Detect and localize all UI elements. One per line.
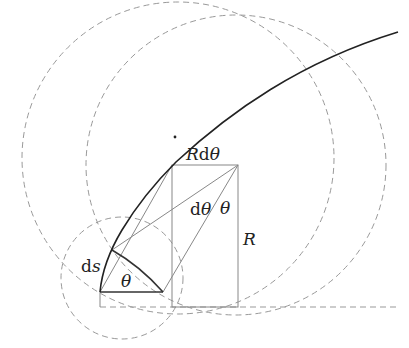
label-r-dtheta: Rdθ <box>185 144 220 164</box>
label-R: R <box>242 229 256 249</box>
chord-line <box>100 165 172 292</box>
label-theta-bottom: θ <box>121 271 131 291</box>
radius-line-theta <box>163 165 238 292</box>
label-dtheta: dθ <box>190 199 211 219</box>
theta-arc <box>112 250 163 292</box>
point-marker <box>174 136 177 139</box>
curvature-diagram: Rdθ dθ θ R ds θ <box>0 0 409 348</box>
construction-rectangle <box>172 165 238 307</box>
label-ds: ds <box>81 256 101 276</box>
label-theta-right: θ <box>220 198 230 218</box>
